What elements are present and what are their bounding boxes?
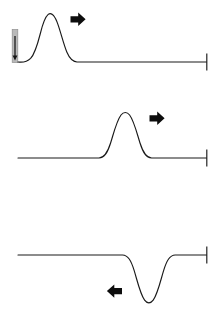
waveform-diagram	[0, 0, 221, 323]
propagation-arrow-left-bottom	[107, 284, 122, 297]
top-trace-waveform	[18, 14, 206, 63]
panel-bottom	[18, 247, 207, 303]
panel-top	[12, 13, 207, 71]
clipped-caption	[0, 318, 221, 323]
panel-middle	[18, 112, 207, 167]
propagation-arrow-right-top	[71, 13, 86, 26]
figure-root	[0, 0, 221, 323]
middle-trace-waveform	[18, 112, 206, 158]
propagation-arrow-right-middle	[150, 112, 165, 125]
